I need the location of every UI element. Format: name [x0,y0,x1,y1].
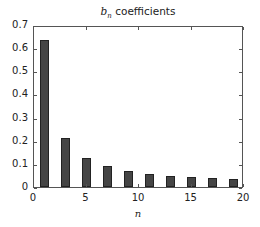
bar [166,176,175,187]
bar [61,138,70,187]
title-text: coefficients [112,5,176,17]
y-tick-mark [239,119,242,120]
bar [208,178,217,187]
bar [229,179,238,187]
bar [145,174,154,187]
y-tick-label: 0.6 [0,42,28,53]
y-tick-mark [239,165,242,166]
x-tick-mark [138,184,139,187]
x-tick-label: 0 [23,192,43,203]
y-tick-label: 0.7 [0,19,28,30]
y-tick-mark [239,72,242,73]
plot-area [33,26,243,188]
x-tick-mark [191,27,192,30]
y-tick-mark [239,49,242,50]
x-tick-mark [33,184,34,187]
y-tick-mark [34,72,37,73]
y-tick-mark [34,165,37,166]
chart-title: bn coefficients [33,5,243,20]
y-tick-label: 0.4 [0,88,28,99]
bar [124,171,133,187]
x-tick-label: 5 [76,192,96,203]
y-tick-mark [34,26,37,27]
bar [40,40,49,187]
y-tick-mark [239,142,242,143]
x-tick-mark [243,27,244,30]
bar [82,158,91,187]
x-tick-mark [33,27,34,30]
x-tick-mark [243,184,244,187]
y-tick-mark [239,188,242,189]
y-tick-label: 0.1 [0,158,28,169]
x-axis-label: n [33,208,243,219]
y-tick-mark [34,119,37,120]
x-tick-mark [138,27,139,30]
y-tick-mark [34,95,37,96]
y-tick-mark [34,188,37,189]
bar [103,166,112,187]
x-tick-label: 15 [181,192,201,203]
x-tick-mark [86,184,87,187]
x-tick-label: 20 [233,192,253,203]
y-tick-label: 0 [0,181,28,192]
x-tick-mark [86,27,87,30]
y-tick-label: 0.5 [0,65,28,76]
x-tick-label: 10 [128,192,148,203]
bar [187,177,196,187]
x-tick-mark [191,184,192,187]
y-tick-label: 0.3 [0,112,28,123]
y-tick-mark [34,49,37,50]
y-tick-mark [239,26,242,27]
y-tick-mark [239,95,242,96]
y-tick-label: 0.2 [0,135,28,146]
y-tick-mark [34,142,37,143]
